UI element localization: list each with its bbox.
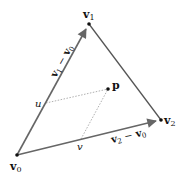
svg-text:v2 − v0: v2 − v0 (109, 126, 147, 147)
vertex-v2-dot (159, 118, 163, 122)
vertex-v1-dot (87, 22, 91, 26)
label-v2: v2 (163, 114, 176, 128)
vertex-v0-dot (15, 153, 19, 157)
dotted-line-v-p (81, 89, 108, 139)
edge-label-v2-minus-v0: v2 − v0 (109, 126, 147, 147)
dotted-line-u-p (46, 89, 108, 103)
label-u: u (35, 98, 41, 109)
svg-text:v1 − v0: v1 − v0 (48, 43, 77, 81)
edge-v0-v1-arrow (17, 29, 86, 155)
label-v-param: v (77, 141, 83, 152)
label-v0: v0 (9, 160, 22, 174)
label-p: p (112, 79, 120, 92)
label-v1: v1 (82, 8, 95, 22)
point-p-dot (106, 87, 110, 91)
barycentric-diagram: v0 v1 v2 p u v v1 − v0 v2 − v0 (0, 0, 186, 177)
edge-label-v1-minus-v0: v1 − v0 (48, 43, 77, 81)
edge-v1-v2 (89, 24, 161, 120)
